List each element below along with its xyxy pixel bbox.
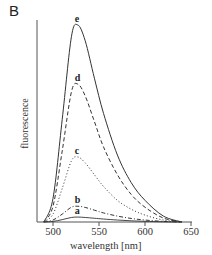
curve-labels: abcde <box>75 13 81 216</box>
curve-label-e: e <box>75 13 80 24</box>
curve-label-d: d <box>75 72 81 83</box>
curve-d <box>44 83 182 222</box>
curve-label-a: a <box>75 205 80 216</box>
curve-label-b: b <box>75 194 81 205</box>
plot-area: abcde <box>0 0 212 255</box>
curves <box>44 24 182 222</box>
curve-e <box>44 24 182 222</box>
curve-label-c: c <box>75 145 80 156</box>
x-ticks <box>53 222 191 226</box>
